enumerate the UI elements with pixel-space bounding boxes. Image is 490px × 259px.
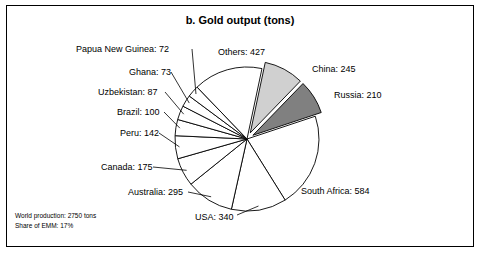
note-share-emm: Share of EMM: 17% xyxy=(15,222,73,229)
slice-label-uzbekistan: Uzbekistan: 87 xyxy=(98,87,158,97)
leader-line xyxy=(171,72,189,103)
pie-svg xyxy=(7,6,473,246)
slice-label-brazil: Brazil: 100 xyxy=(117,107,160,117)
slice-label-others: Others: 427 xyxy=(218,47,265,57)
leader-line xyxy=(165,92,184,114)
pie-chart xyxy=(7,6,473,246)
slice-label-canada: Canada: 175 xyxy=(101,162,153,172)
slice-label-usa: USA: 340 xyxy=(195,212,234,222)
note-world-production: World production: 2750 tons xyxy=(15,212,96,219)
slice-label-papua-new-guinea: Papua New Guinea: 72 xyxy=(76,44,169,54)
pie-slices xyxy=(175,62,321,211)
slice-label-ghana: Ghana: 73 xyxy=(129,67,171,77)
slice-label-south-africa: South Africa: 584 xyxy=(301,186,370,196)
slice-label-russia: Russia: 210 xyxy=(334,90,382,100)
slice-label-peru: Peru: 142 xyxy=(120,128,159,138)
leader-line xyxy=(192,49,196,94)
slice-label-china: China: 245 xyxy=(312,64,356,74)
chart-frame: b. Gold output (tons) Papua New Guinea: … xyxy=(6,5,474,247)
slice-label-australia: Australia: 295 xyxy=(128,187,183,197)
